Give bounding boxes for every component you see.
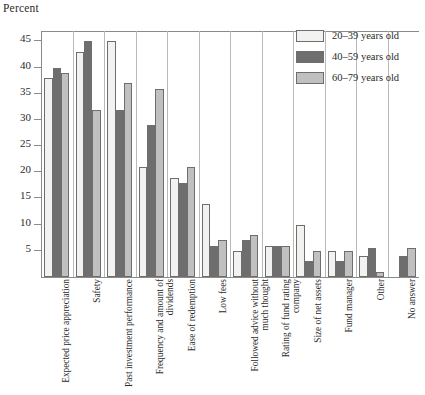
legend-item: 20–39 years old: [296, 30, 420, 42]
bar: [328, 251, 336, 277]
legend-label: 40–59 years old: [332, 51, 399, 63]
bar: [84, 41, 92, 277]
bar-group: [230, 31, 262, 277]
group-separator: [199, 31, 200, 277]
bar: [139, 167, 147, 277]
bar: [155, 89, 163, 277]
bar: [313, 251, 321, 277]
y-axis-tick-label: 10: [20, 217, 31, 228]
y-axis-tick-label: 35: [20, 86, 31, 97]
bar-group: [167, 31, 199, 277]
x-axis-labels: Expected price appreciationSafetyPast in…: [41, 279, 419, 395]
y-axis-tick-mark: [34, 197, 41, 198]
y-axis-tick-mark: [34, 171, 41, 172]
y-axis-tick-label: 15: [20, 190, 31, 201]
group-separator: [136, 31, 137, 277]
bar-group: [104, 31, 136, 277]
group-separator: [262, 31, 263, 277]
y-axis-tick-mark: [34, 224, 41, 225]
y-axis-tick-mark: [34, 250, 41, 251]
bar: [170, 178, 178, 277]
legend-item: 40–59 years old: [296, 51, 420, 63]
bar-group: [262, 31, 294, 277]
legend-label: 20–39 years old: [332, 30, 399, 42]
legend-label: 60–79 years old: [332, 72, 399, 84]
bar: [187, 167, 195, 277]
bar-chart: Percent 51015202530354045 Expected price…: [0, 0, 425, 395]
bar: [336, 261, 344, 277]
bar: [53, 68, 61, 277]
bar-group: [41, 31, 73, 277]
bar: [359, 256, 367, 277]
bar: [273, 246, 281, 277]
y-axis-tick-label: 45: [20, 33, 31, 44]
bar: [76, 52, 84, 277]
bar: [179, 183, 187, 277]
y-axis-tick-mark: [34, 67, 41, 68]
bar: [368, 248, 376, 277]
bar: [218, 240, 226, 277]
y-axis-tick-label: 20: [20, 164, 31, 175]
bar: [107, 41, 115, 277]
bar: [233, 251, 241, 277]
bar: [265, 246, 273, 277]
y-axis-tick-mark: [34, 119, 41, 120]
bar: [344, 251, 352, 277]
bar: [116, 110, 124, 277]
group-separator: [230, 31, 231, 277]
bar: [242, 240, 250, 277]
bar: [92, 110, 100, 277]
bar: [147, 125, 155, 277]
legend-swatch: [296, 72, 324, 84]
y-axis-tick-label: 5: [26, 243, 32, 254]
bar-group: [199, 31, 231, 277]
y-axis-tick-label: 25: [20, 138, 31, 149]
y-axis-tick-label: 30: [20, 112, 31, 123]
bar: [250, 235, 258, 277]
legend-swatch: [296, 30, 324, 42]
y-axis-tick-mark: [34, 93, 41, 94]
group-separator: [167, 31, 168, 277]
bar: [376, 272, 384, 277]
bar: [399, 256, 407, 277]
legend-item: 60–79 years old: [296, 72, 420, 84]
x-axis-label: No answer: [407, 279, 425, 391]
y-axis-tick-label: 40: [20, 60, 31, 71]
bar-group: [73, 31, 105, 277]
y-axis-tick-mark: [34, 145, 41, 146]
legend-swatch: [296, 51, 324, 63]
bar-group: [136, 31, 168, 277]
legend: 20–39 years old40–59 years old60–79 year…: [296, 30, 420, 93]
bar: [305, 261, 313, 277]
group-separator: [104, 31, 105, 277]
group-separator: [73, 31, 74, 277]
y-axis-tick-mark: [34, 40, 41, 41]
bar: [407, 248, 415, 277]
bar: [202, 204, 210, 277]
bar: [61, 73, 69, 277]
bar: [210, 246, 218, 277]
bar: [124, 83, 132, 277]
group-separator: [293, 31, 294, 277]
bar: [296, 225, 304, 277]
x-axis-baseline: [41, 277, 419, 278]
y-axis-title: Percent: [3, 2, 39, 14]
bar: [44, 78, 52, 277]
bar: [281, 246, 289, 277]
